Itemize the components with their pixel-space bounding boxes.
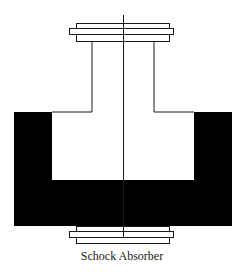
bottom-cap	[70, 227, 174, 244]
shock-absorber-diagram	[0, 0, 244, 272]
top-cap	[70, 24, 174, 42]
diagram-caption: Schock Absorber	[0, 249, 244, 263]
